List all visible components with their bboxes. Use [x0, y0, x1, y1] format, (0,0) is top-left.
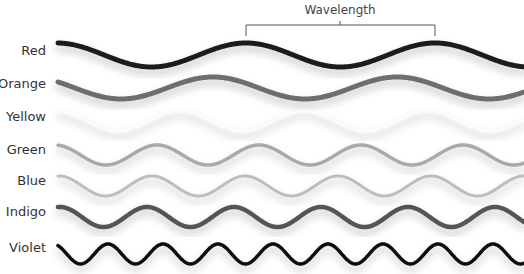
- wave-blue: [58, 176, 524, 196]
- wavelength-label: Wavelength: [304, 3, 375, 17]
- wave-yellow: [58, 111, 524, 131]
- label-green: Green: [7, 142, 46, 157]
- wave-green: [58, 145, 524, 165]
- waves-canvas: [0, 0, 524, 274]
- wave-red: [58, 43, 524, 67]
- label-indigo: Indigo: [6, 204, 46, 219]
- label-violet: Violet: [9, 240, 46, 255]
- label-red: Red: [21, 43, 46, 58]
- wave-indigo: [58, 207, 524, 227]
- wave-orange: [58, 77, 524, 99]
- label-orange: Orange: [0, 76, 46, 91]
- label-blue: Blue: [17, 173, 46, 188]
- wavelength-bracket: [246, 21, 435, 36]
- wavelength-diagram: Wavelength Red Orange Yellow Green Blue …: [0, 0, 524, 274]
- label-yellow: Yellow: [6, 109, 46, 124]
- wave-violet: [58, 244, 524, 264]
